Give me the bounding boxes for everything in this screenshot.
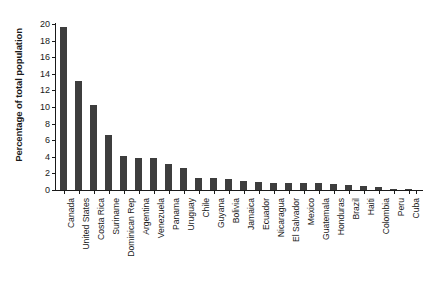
x-axis-tick-mark	[379, 190, 380, 194]
x-axis-tick-mark	[154, 190, 155, 194]
x-axis-tick-mark	[274, 190, 275, 194]
y-axis-tick-label: 6	[45, 136, 50, 145]
y-axis-tick-label: 12	[40, 86, 50, 95]
y-axis-tick-label: 18	[40, 36, 50, 45]
x-axis-tick-mark	[109, 190, 110, 194]
x-axis-tick-label: Venezuela	[157, 158, 166, 198]
y-axis-tick-label: 4	[45, 152, 50, 161]
plot-area: 02468101214161820	[56, 24, 416, 190]
x-axis-tick-label: Brazil	[352, 177, 361, 199]
x-axis-tick-mark	[334, 190, 335, 194]
x-axis-tick-label: Haiti	[367, 181, 376, 198]
x-axis-tick-mark	[394, 190, 395, 194]
x-axis-tick-label: Uruguay	[187, 166, 196, 198]
x-axis-tick-mark	[289, 190, 290, 194]
x-axis-tick-label: El Salvador	[292, 154, 301, 198]
x-axis-tick-mark	[169, 190, 170, 194]
bar-chart: Percentage of total population 024681012…	[0, 0, 446, 288]
x-axis-tick-label: Costa Rica	[97, 156, 106, 198]
x-axis-tick-mark	[259, 190, 260, 194]
x-axis-tick-label: Chile	[202, 178, 211, 198]
x-axis-tick-label: Dominican Rep	[127, 139, 136, 198]
x-axis-tick-label: Argentina	[142, 161, 151, 198]
x-axis-tick-label: Cuba	[412, 177, 421, 198]
x-axis-tick-label: United States	[82, 146, 91, 198]
x-axis-tick-mark	[124, 190, 125, 194]
x-axis-tick-label: Peru	[397, 180, 406, 198]
x-axis-tick-mark	[64, 190, 65, 194]
x-axis-tick-label: Ecuador	[262, 166, 271, 198]
y-axis-tick-label: 8	[45, 119, 50, 128]
y-axis-tick-label: 16	[40, 53, 50, 62]
bar-slot	[405, 24, 413, 190]
bar-slot	[225, 24, 233, 190]
y-axis-tick-label: 20	[40, 20, 50, 29]
bar-slot	[360, 24, 368, 190]
x-axis-tick-mark	[199, 190, 200, 194]
y-axis-title: Percentage of total population	[9, 0, 27, 190]
x-axis-tick-mark	[94, 190, 95, 194]
x-axis-tick-mark	[319, 190, 320, 194]
x-axis-tick-mark	[244, 190, 245, 194]
x-axis-tick-mark	[79, 190, 80, 194]
y-axis-tick-label: 2	[45, 169, 50, 178]
x-axis-tick-label: Bolivia	[232, 173, 241, 198]
y-axis-tick-label: 10	[40, 103, 50, 112]
x-axis-tick-mark	[304, 190, 305, 194]
x-axis-tick-mark	[349, 190, 350, 194]
y-axis-tick-mark	[52, 190, 56, 191]
y-axis-tick-label: 14	[40, 69, 50, 78]
x-axis-tick-mark	[229, 190, 230, 194]
x-axis-tick-label: Guyana	[217, 168, 226, 198]
bar-slot	[60, 24, 68, 190]
x-axis-tick-label: Jamaica	[247, 166, 256, 198]
bar-slot	[210, 24, 218, 190]
x-axis-tick-label: Colombia	[382, 162, 391, 198]
y-axis-tick-label: 0	[45, 186, 50, 195]
x-axis-tick-mark	[139, 190, 140, 194]
x-axis-tick-label: Mexico	[307, 171, 316, 198]
x-axis-tick-mark	[214, 190, 215, 194]
x-axis-tick-mark	[184, 190, 185, 194]
bars-group	[56, 24, 416, 190]
x-axis-tick-mark	[409, 190, 410, 194]
x-axis-tick-label: Canada	[67, 168, 76, 198]
x-axis-tick-label: Guatemala	[322, 156, 331, 198]
x-axis-tick-label: Nicaragua	[277, 159, 286, 198]
x-axis-tick-label: Panama	[172, 166, 181, 198]
bar	[60, 27, 68, 190]
x-axis-tick-label: Honduras	[337, 161, 346, 198]
x-axis-tick-label: Suriname	[112, 161, 121, 198]
x-axis-tick-mark	[364, 190, 365, 194]
